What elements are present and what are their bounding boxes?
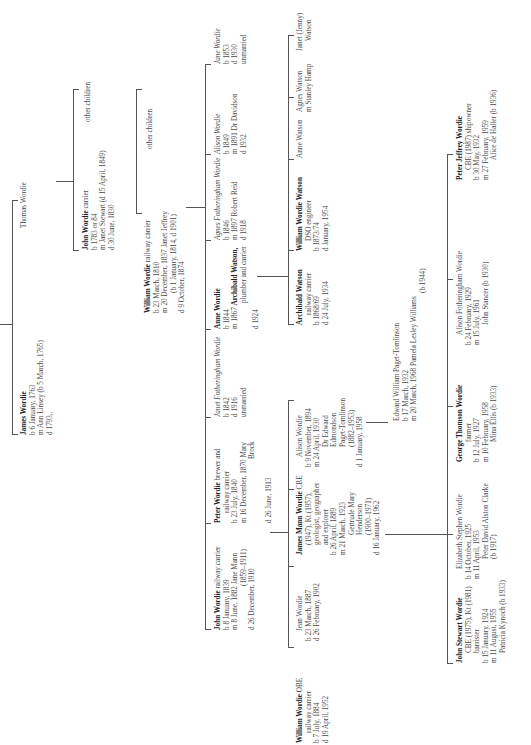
gen5-watson-sibling-bar [288, 35, 289, 325]
spouse-name: Dr Edward [322, 398, 331, 467]
birth-date: b 9 November, 1894 [305, 398, 314, 467]
occupation: carrier [82, 190, 90, 211]
william-descent [186, 207, 205, 208]
birth-date: b 1783 or 84 [91, 150, 100, 250]
gen3-tick-william [136, 213, 142, 214]
occupation: railway carrier [144, 220, 152, 264]
honours: CBE (1975), Kt (1981) [465, 580, 474, 663]
person-name: James Mann Wordie [296, 491, 304, 555]
person-name: Jean Wordie [296, 583, 305, 641]
person-agnes-fotheringham-wordie: Agnes Fotheringham Wordie b 1846 m 1897 … [214, 157, 248, 240]
birth-date: b 6 January, 1763 [29, 340, 38, 435]
root-stub-vertical [0, 324, 12, 325]
birth-date: b 23 July, 1840 [231, 441, 240, 523]
occupation: farmer [465, 385, 474, 462]
marriage-detail: (1859–1911) [240, 546, 249, 630]
person-name: John Wordie [214, 590, 222, 630]
marital-status: unmarried [240, 28, 249, 64]
person-name: Anne Wordie [214, 246, 223, 329]
spouse-name: Alice de Haller (b 1936) [490, 90, 499, 180]
birth-date: b 30 May, 1932 [473, 90, 482, 180]
death-date: d January, 1954 [322, 177, 331, 251]
occupation: railway carrier [305, 269, 314, 325]
person-name: Anne Watson [296, 119, 305, 158]
spouse-name: Peter David Alston Clarke [482, 483, 491, 579]
other-children-gen3: other children [146, 109, 155, 149]
occupation-continued: and explorer [322, 475, 331, 555]
birth-date: b 23 March, 1810 [153, 211, 162, 313]
spouse-dates: (b 1917) [490, 483, 499, 579]
gen5-tick-janet-watson [288, 35, 294, 36]
death-date: d 1916 [231, 336, 240, 417]
person-name: William Wordie [296, 694, 304, 743]
other-children-label: other children [84, 82, 93, 122]
marriage: m 1867 [231, 305, 239, 329]
spouse-dates: (1882–1953) [348, 398, 357, 467]
gen4-tick-peter [205, 523, 211, 524]
gen5-tick-alison [288, 400, 294, 401]
person-james-wordie: James Wordie b 6 January, 1763 m Ann Lin… [20, 340, 54, 435]
person-thomas-wordie: Thomas Wordie [20, 182, 29, 228]
gen6-tick-george [447, 406, 453, 407]
person-peter-jeffrey-wordie: Peter Jeffrey Wordie CBE (1987) shipowne… [456, 90, 499, 180]
person-william-wordie-railway-carrier: William Wordie railway carrier b 23 Marc… [144, 211, 187, 313]
death-date: d 1924 [252, 246, 261, 329]
gen6-tick-john-stewart [447, 663, 453, 664]
birth-date: b 23 March, 1887 [305, 583, 314, 641]
person-george-thomson-wordie: George Thomson Wordie farmer b 12 July, … [456, 385, 499, 462]
other-children-label: other children [146, 109, 155, 149]
person-name: William Wordie Watson [296, 177, 305, 251]
person-name: Peter Wordie [214, 482, 222, 523]
death-date: d 19 April, 1952 [322, 678, 331, 743]
birth-date: b 1873/74 [313, 177, 322, 251]
gen4-tick-alison [205, 154, 211, 155]
gen2-tick-others [73, 89, 79, 90]
gen5-wordie-sibling-bar [288, 400, 289, 648]
james-link [56, 181, 73, 182]
death-date: d 1793,. [46, 340, 55, 435]
gen5-tick-anne-watson [288, 159, 294, 160]
gen5-tick-archibald [288, 324, 294, 325]
gen1-tick-thomas [12, 200, 18, 201]
person-name: Alison Wordie [214, 94, 223, 155]
person-alison-wordie-1894: Alison Wordie b 9 November, 1894 m 24 Ap… [296, 398, 365, 467]
gen4-tick-agnes [205, 240, 211, 241]
honours-continued: (1947), Kt (1957), [305, 475, 314, 555]
gen4-tick-anne [205, 329, 211, 330]
marriage: m 21 March, 1923 [339, 475, 348, 555]
spouse-occupation: plumber and carrier [240, 246, 249, 329]
occupation: DSO engineer [305, 177, 314, 251]
person-name: George Thomson Wordie [456, 385, 465, 462]
person-edward-paget-tomlinson: Edward William Paget-Tomlinson b 17 Marc… [393, 268, 427, 421]
gen4-tick-janet [205, 417, 211, 418]
gen6-tick-alison-f [447, 279, 453, 280]
person-janet-jenny-watson: Janet (Jenny) Watson [296, 13, 313, 51]
death-date: d 9 October, 1874 [178, 211, 187, 313]
death-date: d 26 December, 1910 [248, 546, 257, 630]
person-john-stewart-wordie: John Stewart Wordie CBE (1975), Kt (1981… [456, 580, 508, 663]
person-name: John Stewart Wordie [456, 580, 465, 663]
gen6-tick-elizabeth [447, 534, 453, 535]
marital-status: unmarried [240, 336, 249, 417]
gen4-tick-john [205, 629, 211, 630]
birth-date: b 14 October, 1925 [465, 483, 474, 579]
person-name: Agnes Fotheringham Wordie [214, 157, 223, 240]
spouse-name: Gertrude Mary [348, 475, 357, 555]
gen4-tick-jane [205, 64, 211, 65]
occupation: geologist, geographer [313, 475, 322, 555]
person-name: Agnes Watson [296, 64, 305, 112]
marriage: m 1891 Dr Davidson [231, 94, 240, 155]
honour: OBE [296, 678, 304, 694]
marriage: m 20 March, 1968 Pamela Lesley Williams [410, 268, 419, 421]
marriage-detail: (b 1944) [419, 268, 428, 421]
death-date: d 30 June, 1830 [108, 150, 117, 250]
spouse-dates: (1900–1971) [365, 475, 374, 555]
person-william-wordie-watson: William Wordie Watson DSO engineer b 187… [296, 177, 330, 251]
honour: CBE [296, 475, 304, 491]
marriage-detail: (b 1 January, 1814, d 1901) [170, 211, 179, 313]
birth-date: b 8 January, 1839 [223, 546, 232, 630]
person-name: Janet (Jenny) [296, 13, 305, 51]
marriage: m 15 July, 1961 [473, 251, 482, 345]
spouse-name-continued-2: Paget-Tomlinson [339, 398, 348, 467]
spouse-name: Patricia Kynoch (b 1933) [499, 580, 508, 663]
